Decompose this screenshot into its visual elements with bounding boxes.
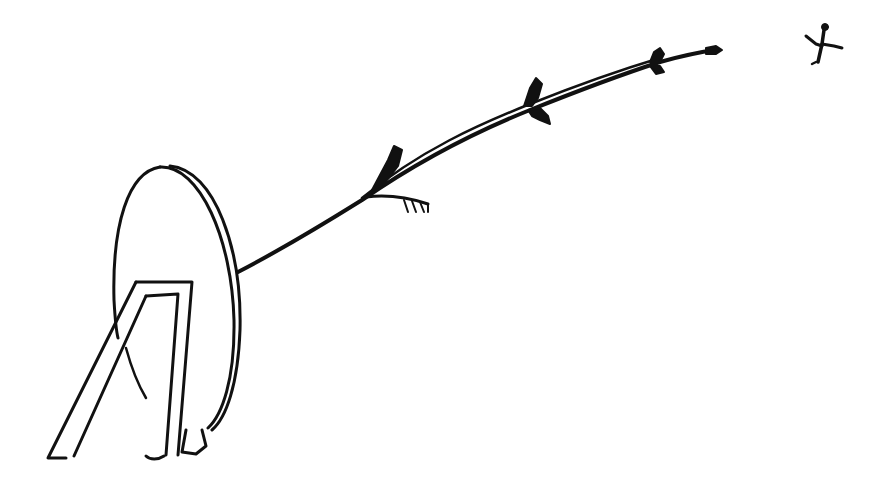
target-stand [48,282,192,459]
arrow-trail [238,46,722,272]
sketch-canvas [0,0,886,501]
tiny-figure [806,24,842,65]
